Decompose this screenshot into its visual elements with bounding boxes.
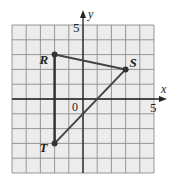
coordinate-plane: RST x y 0 5 5 <box>0 0 176 183</box>
y-axis-label: y <box>87 7 94 21</box>
x-tick-label-5: 5 <box>150 100 157 115</box>
vertex-label-t: T <box>40 140 49 155</box>
origin-label: 0 <box>72 100 78 114</box>
vertex-t <box>52 140 58 146</box>
x-axis-arrow-icon <box>159 96 167 102</box>
x-axis-label: x <box>160 82 167 96</box>
y-axis-arrow-icon <box>80 10 86 18</box>
vertex-label-r: R <box>39 52 49 67</box>
vertex-s <box>123 66 129 72</box>
vertex-label-s: S <box>130 55 137 70</box>
vertex-r <box>52 52 58 58</box>
y-tick-label-5: 5 <box>73 20 80 35</box>
